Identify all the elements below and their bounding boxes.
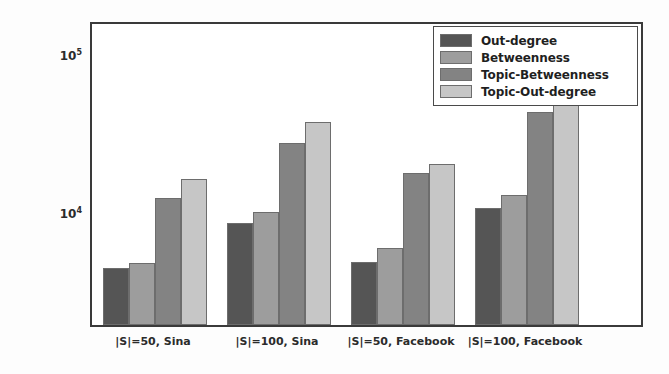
legend-item: Topic-Out-degree [440, 83, 631, 100]
legend-swatch-topic-out-degree [440, 85, 472, 98]
bar [103, 268, 129, 325]
legend-item: Betweenness [440, 49, 631, 66]
bar [351, 262, 377, 325]
bar [377, 248, 403, 325]
bar [553, 102, 579, 325]
legend-label: Topic-Out-degree [481, 85, 596, 99]
legend-swatch-out-degree [440, 34, 472, 47]
legend-swatch-betweenness [440, 51, 472, 64]
x-tick-label: |S|=50, Facebook [331, 335, 471, 348]
bar [155, 198, 181, 325]
legend-item: Topic-Betweenness [440, 66, 631, 83]
legend-item: Out-degree [440, 32, 631, 49]
bar [501, 195, 527, 325]
bar [475, 208, 501, 325]
x-tick-label: |S|=100, Sina [207, 335, 347, 348]
legend-swatch-topic-betweenness [440, 68, 472, 81]
chart-legend: Out-degree Betweenness Topic-Betweenness… [433, 26, 638, 106]
y-tick-label: 105 [36, 48, 82, 63]
legend-label: Betweenness [481, 51, 570, 65]
bar [527, 112, 553, 325]
bar [403, 173, 429, 325]
bar [253, 212, 279, 325]
bar [305, 122, 331, 325]
bar [279, 143, 305, 325]
legend-label: Topic-Betweenness [481, 68, 609, 82]
bar [227, 223, 253, 325]
x-tick-label: |S|=100, Facebook [455, 335, 595, 348]
x-tick-label: |S|=50, Sina [83, 335, 223, 348]
bar [181, 179, 207, 325]
bar [429, 164, 455, 325]
chart-figure: Running time (in seconds) 105104 |S|=50,… [0, 0, 669, 374]
legend-label: Out-degree [481, 34, 557, 48]
y-tick-label: 104 [36, 206, 82, 221]
bar [129, 263, 155, 325]
